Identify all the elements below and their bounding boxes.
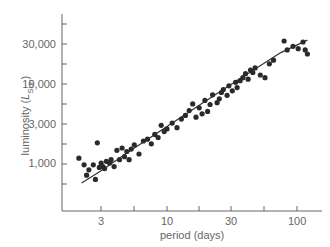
data-point — [174, 125, 179, 130]
data-point — [149, 141, 154, 146]
data-point — [112, 164, 117, 169]
data-point — [136, 151, 141, 156]
data-point — [226, 83, 231, 88]
data-point — [202, 98, 207, 103]
x-tick-label: 3 — [98, 215, 104, 227]
data-point — [258, 72, 263, 77]
data-point — [221, 87, 226, 92]
y-tick-label: 30,000 — [22, 38, 56, 50]
data-point — [124, 149, 129, 154]
data-point — [300, 39, 305, 44]
scatter-chart: 30,000 10,000 3,000 1,000 3 10 30 100 lu… — [0, 0, 330, 247]
data-point — [262, 75, 267, 80]
data-point — [217, 96, 222, 101]
data-point — [253, 65, 258, 70]
data-point — [132, 142, 137, 147]
data-point — [187, 108, 192, 113]
data-point — [156, 135, 161, 140]
x-tick-label: 30 — [225, 215, 237, 227]
x-tick-label: 10 — [161, 215, 173, 227]
data-point — [164, 126, 169, 131]
data-point — [208, 102, 213, 107]
data-point — [246, 77, 251, 82]
data-point — [82, 162, 87, 167]
data-point — [86, 167, 91, 172]
data-point — [250, 70, 255, 75]
y-axis-label: luminosity (LSun) — [19, 61, 34, 171]
data-point — [290, 44, 295, 49]
data-point — [120, 145, 125, 150]
data-point — [190, 101, 195, 106]
x-axis-label: period (days) — [160, 229, 224, 241]
data-point — [76, 156, 81, 161]
x-tick-label: 100 — [288, 215, 306, 227]
data-point — [91, 162, 96, 167]
data-point — [114, 148, 119, 153]
data-point — [243, 71, 248, 76]
data-point — [210, 92, 215, 97]
data-point — [267, 61, 272, 66]
data-point — [193, 115, 198, 120]
data-point — [200, 111, 205, 116]
data-point — [93, 177, 98, 182]
data-point — [197, 105, 202, 110]
data-point — [117, 157, 122, 162]
data-point — [122, 154, 127, 159]
data-point — [235, 85, 240, 90]
data-point — [285, 47, 290, 52]
data-point — [225, 93, 230, 98]
data-point — [95, 140, 100, 145]
data-point — [109, 157, 114, 162]
data-points — [76, 38, 310, 182]
data-point — [205, 109, 210, 114]
data-point — [159, 123, 164, 128]
data-point — [296, 46, 301, 51]
data-point — [84, 173, 89, 178]
data-point — [282, 38, 287, 43]
data-point — [129, 147, 134, 152]
data-point — [233, 80, 238, 85]
data-point — [183, 113, 188, 118]
data-point — [145, 137, 150, 142]
data-point — [230, 88, 235, 93]
data-point — [305, 51, 310, 56]
data-point — [102, 166, 107, 171]
data-point — [127, 157, 132, 162]
data-point — [179, 117, 184, 122]
data-point — [271, 58, 276, 63]
data-point — [170, 121, 175, 126]
